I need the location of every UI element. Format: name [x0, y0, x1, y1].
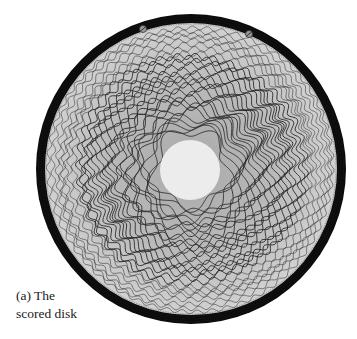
- caption-line-1: (a) The: [16, 287, 77, 305]
- figure-caption: (a) The scored disk: [16, 287, 77, 323]
- caption-line-2: scored disk: [16, 305, 77, 323]
- scored-disk-figure: (a) The scored disk: [0, 0, 357, 339]
- disk-center: [160, 140, 220, 200]
